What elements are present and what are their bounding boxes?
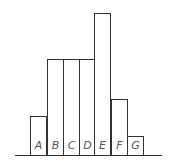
bar-g: G xyxy=(127,136,144,156)
bar-label: F xyxy=(112,140,127,152)
bar-label: E xyxy=(95,140,110,152)
bar-label: B xyxy=(48,140,63,152)
bar-b: B xyxy=(47,59,64,156)
bar-a: A xyxy=(30,116,47,156)
bar-label: A xyxy=(31,140,46,152)
bar-c: C xyxy=(63,59,80,156)
bar-chart: ABCDEFG xyxy=(0,0,171,163)
bar-label: G xyxy=(128,140,143,152)
bar-e: E xyxy=(94,13,111,156)
bar-f: F xyxy=(111,99,128,156)
x-axis-baseline xyxy=(15,155,162,156)
bar-label: D xyxy=(80,140,95,152)
bar-label: C xyxy=(64,140,79,152)
